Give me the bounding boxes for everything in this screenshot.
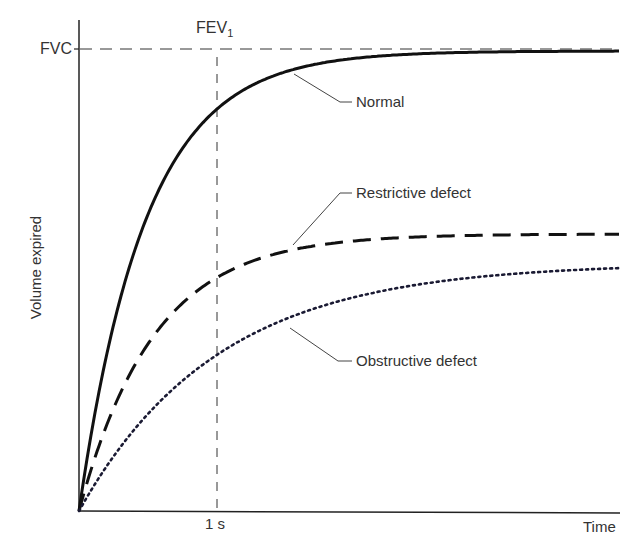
spirometry-diagram: FVC FEV1 Normal Restrictive defect Obstr… bbox=[0, 0, 639, 549]
x-axis-label: Time bbox=[583, 518, 616, 535]
x-axis bbox=[79, 511, 620, 513]
x-tick-1s: 1 s bbox=[205, 515, 225, 532]
plot-area bbox=[0, 0, 639, 549]
y-axis-label: Volume expired bbox=[27, 213, 44, 323]
fev-subscript: 1 bbox=[227, 27, 233, 39]
obstructive-leader bbox=[290, 328, 352, 361]
fev1-label: FEV1 bbox=[196, 19, 233, 39]
fvc-label: FVC bbox=[40, 40, 72, 58]
obstructive-label: Obstructive defect bbox=[356, 352, 477, 369]
fev-text: FEV bbox=[196, 19, 227, 36]
restrictive-curve bbox=[79, 234, 619, 511]
normal-leader bbox=[294, 74, 352, 102]
normal-curve bbox=[79, 51, 619, 511]
obstructive-curve bbox=[79, 268, 619, 511]
normal-label: Normal bbox=[356, 93, 404, 110]
restrictive-label: Restrictive defect bbox=[356, 184, 471, 201]
restrictive-leader bbox=[293, 193, 352, 245]
